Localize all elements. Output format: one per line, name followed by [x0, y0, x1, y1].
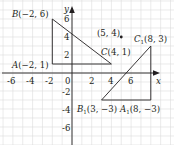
x-tick: 6: [128, 76, 133, 86]
x-tick: 2: [89, 76, 94, 86]
label-c1: C1(8, 3): [134, 34, 167, 45]
label-c: C(4, 1): [101, 47, 131, 57]
y-tick: -4: [62, 105, 71, 115]
y-tick: -6: [62, 123, 70, 133]
x-tick: 4: [108, 76, 114, 86]
label-center: (5, 4): [97, 28, 120, 38]
x-axis-arrow-icon: [153, 70, 160, 76]
label-b1: B1(3, −3): [76, 104, 117, 115]
rotation-center-point: [120, 36, 123, 39]
label-a1: A1(8, −3): [119, 104, 160, 115]
x-tick: -4: [26, 76, 35, 86]
y-tick: -2: [62, 87, 70, 97]
y-axis-arrow-icon: [69, 6, 75, 13]
y-tick: 4: [64, 32, 70, 42]
x-axis-label: x: [156, 76, 161, 86]
y-tick: 6: [64, 14, 69, 24]
x-tick: 0: [65, 76, 70, 86]
x-tick: -2: [45, 76, 53, 86]
label-a: A(−2, 1): [11, 60, 49, 70]
coordinate-plane: x y -6 -4 -2 0 2 4 6 6 4 2 -2 -4 -6 B(−2…: [0, 0, 174, 145]
label-b: B(−2, 6): [11, 9, 49, 19]
grid: [0, 0, 174, 145]
y-axis-label: y: [63, 4, 69, 14]
x-tick: -6: [7, 76, 15, 86]
y-tick: 2: [64, 50, 69, 60]
